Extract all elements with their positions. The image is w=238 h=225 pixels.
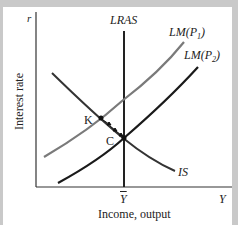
point-k [99,116,104,121]
c-label: C [106,135,114,147]
k-label: K [84,114,93,126]
y-bar-tick-label: Y [120,193,127,205]
is-label: IS [178,166,188,178]
lm2-curve [58,67,198,183]
lras-label: LRAS [110,14,137,26]
is-curve [52,73,175,171]
r-axis-symbol: r [27,12,31,24]
lm2-label: LM(P2) [184,49,220,66]
x-axis-label: Income, output [98,208,171,220]
y-axis-label: Interest rate [12,73,27,130]
y-axis-symbol: Y [219,193,226,205]
lm1-label: LM(P1) [169,26,205,43]
